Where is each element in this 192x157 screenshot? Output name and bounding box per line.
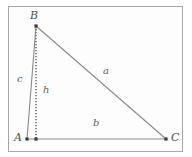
vertex-dot-foot-of-altitude	[34, 137, 37, 140]
triangle-diagram-canvas	[0, 0, 192, 157]
side-label-c: c	[17, 74, 23, 84]
vertex-label-A: A	[14, 132, 22, 143]
vertex-label-C: C	[171, 132, 179, 143]
vertex-dot-C	[164, 137, 167, 140]
side-label-h: h	[43, 85, 49, 95]
segment-c-left	[27, 26, 36, 139]
geometry-figure: A B C c a b h	[0, 0, 192, 157]
vertex-label-B: B	[30, 10, 38, 21]
vertex-dot-B	[34, 24, 37, 27]
side-label-b: b	[93, 118, 99, 128]
vertex-dot-A	[25, 137, 28, 140]
segment-a-right	[36, 26, 166, 139]
side-label-a: a	[103, 66, 109, 76]
